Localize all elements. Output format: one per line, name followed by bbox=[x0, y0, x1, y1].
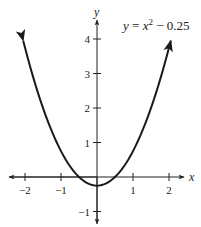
y-tick-label: 1 bbox=[85, 137, 91, 149]
equation-label: y = x2 − 0.25 bbox=[121, 17, 190, 33]
y-tick-label: 4 bbox=[85, 33, 91, 45]
x-tick-label: 2 bbox=[166, 184, 172, 196]
x-ticks: −2−112 bbox=[19, 173, 172, 196]
y-tick-label: 3 bbox=[85, 68, 91, 80]
parabola-chart: −2−112 −11234 x y y = x2 − 0.25 bbox=[0, 0, 201, 227]
x-tick-label: 1 bbox=[130, 184, 136, 196]
y-ticks: −11234 bbox=[78, 33, 101, 218]
x-axis-label: x bbox=[188, 170, 195, 184]
y-tick-label: 2 bbox=[85, 102, 91, 114]
y-tick-label: −1 bbox=[78, 206, 90, 218]
y-axis-label: y bbox=[93, 5, 100, 19]
x-tick-label: −2 bbox=[19, 184, 31, 196]
x-tick-label: −1 bbox=[55, 184, 67, 196]
